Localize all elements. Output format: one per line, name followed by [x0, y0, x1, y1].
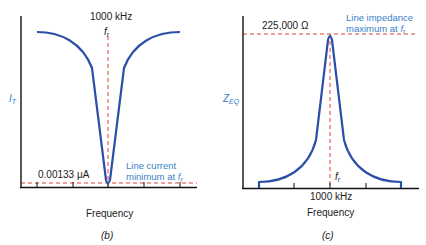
chart-c-fr-label: fr [335, 171, 340, 183]
chart-b-y-axis-label: IT [9, 93, 16, 105]
chart-c-resonance-frequency-label: 1000 kHz [310, 191, 352, 202]
annotation-line1: Line impedance [346, 12, 413, 23]
annotation-fr-sub: r [180, 176, 182, 183]
annotation-line2-text: minimum at [126, 171, 178, 182]
chart-c-x-ticks [259, 183, 401, 188]
annotation-line1: Line current [126, 160, 183, 171]
chart-c-panel-label: (c) [322, 230, 334, 241]
annotation-line2-text: maximum at [346, 23, 400, 34]
annotation-fr-sub: r [403, 28, 405, 35]
chart-c-y-axis-label: ZEQ [223, 93, 239, 105]
chart-b-minimum-value-label: 0.00133 μA [38, 169, 89, 180]
annotation-line2: maximum at fr [346, 23, 413, 37]
chart-c-annotation: Line impedance maximum at fr [346, 12, 413, 37]
chart-c-x-axis-label: Frequency [307, 207, 354, 218]
ylabel-sub: EQ [229, 98, 239, 105]
chart-b-x-axis-label: Frequency [86, 208, 133, 219]
chart-b-resonance-frequency-label: 1000 kHz [90, 11, 132, 22]
fr-sub: r [107, 31, 109, 38]
fr-sub: r [338, 176, 340, 183]
ylabel-sub: T [12, 98, 16, 105]
chart-b-panel-label: (b) [101, 230, 113, 241]
annotation-line2: minimum at fr [126, 171, 183, 185]
chart-c-maximum-value-label: 225,000 Ω [262, 20, 308, 31]
chart-b-fr-label: fr [104, 26, 109, 38]
chart-b-annotation: Line current minimum at fr [126, 160, 183, 185]
chart-c [242, 16, 419, 189]
